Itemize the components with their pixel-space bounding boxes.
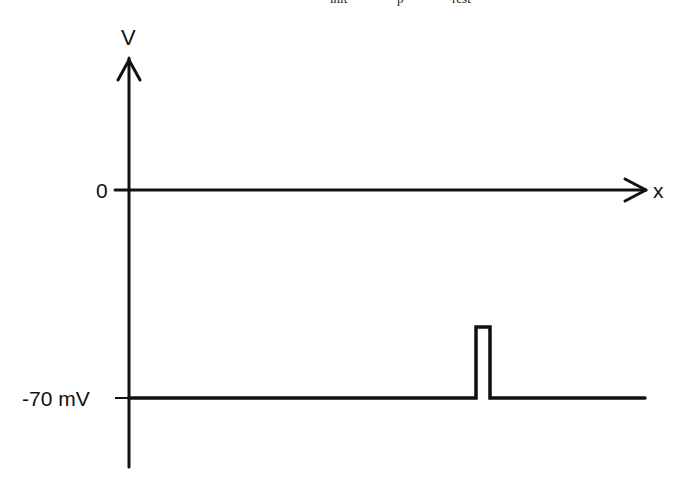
potential-trace [129,327,645,398]
x-axis: x [115,179,664,202]
tick-label-zero: 0 [96,179,108,202]
y-axis: V [118,25,140,467]
x-axis-label: x [653,179,664,202]
tick-label-rest: -70 mV [22,387,90,410]
y-axis-label: V [121,25,136,50]
membrane-potential-diagram: V x 0 -70 mV [0,0,682,489]
